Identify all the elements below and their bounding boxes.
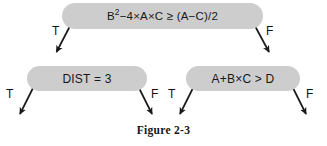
decision-node-bottom-right: A+B×C > D (186, 66, 300, 91)
arrow-bottom-right-true (180, 88, 193, 114)
arrow-bottom-left-true (20, 88, 33, 114)
decision-node-bottom-right-expression: A+B×C > D (212, 72, 275, 86)
decision-node-bottom-left-expression: DIST = 3 (62, 72, 111, 86)
figure-container: B2−4×A×C ≥ (A−C)/2 DIST = 3 A+B×C > D T … (0, 0, 327, 146)
branch-label-top-true: T (52, 25, 59, 37)
figure-caption: Figure 2-3 (0, 124, 327, 136)
branch-label-bottom-right-false: F (306, 88, 313, 100)
decision-node-top: B2−4×A×C ≥ (A−C)/2 (62, 3, 263, 29)
expression-rest: −4×A×C ≥ (A−C)/2 (120, 10, 218, 22)
expression-base: B (107, 10, 115, 22)
branch-label-bottom-left-true: T (6, 88, 13, 100)
branch-label-bottom-right-true: T (168, 88, 175, 100)
arrow-bottom-right-false (293, 88, 306, 114)
branch-label-bottom-left-false: F (151, 88, 158, 100)
decision-node-top-expression: B2−4×A×C ≥ (A−C)/2 (107, 10, 218, 22)
decision-node-bottom-left: DIST = 3 (27, 66, 147, 91)
branch-label-top-false: F (266, 25, 273, 37)
